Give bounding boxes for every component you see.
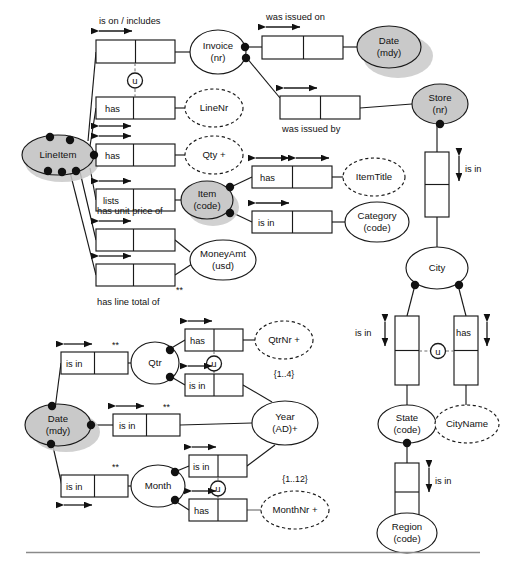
entity-qtrnr[interactable]: QtrNr + {1..4} <box>255 321 313 379</box>
fact-date-is-in-month[interactable]: is in ** <box>61 462 128 505</box>
fact-has-linenr[interactable]: has <box>96 97 175 126</box>
fact-city-has-name[interactable]: has <box>454 316 487 385</box>
mandatory-dot-lineitem-5 <box>58 168 66 176</box>
fact-item-has-title[interactable]: has <box>252 158 332 188</box>
uniqueness-u-label-2: u <box>435 346 440 357</box>
entity-label-lineitem-name: LineItem <box>40 149 77 160</box>
mandatory-dot-date-year <box>87 421 95 429</box>
entity-lineitem[interactable]: LineItem <box>22 135 94 175</box>
predicate-label-city-is-in-state: is in <box>355 328 372 338</box>
entity-label-year-ref: (AD)+ <box>272 423 298 434</box>
uniqueness-u-city[interactable]: u <box>419 344 454 359</box>
entity-region[interactable]: Region (code) <box>377 513 437 553</box>
entity-label-category-ref: (code) <box>363 222 390 233</box>
role-label-has-linenr: has <box>105 104 120 114</box>
entity-label-date-bot-ref: (mdy) <box>46 425 71 436</box>
mandatory-dot-lineitem-4 <box>44 167 52 175</box>
fact-date-is-in-year[interactable]: is in ** <box>113 402 180 436</box>
mandatory-dot-city-state <box>411 281 419 289</box>
fact-item-is-in-category[interactable]: is in <box>252 203 332 233</box>
entity-invoice[interactable]: Invoice (nr) <box>190 30 246 74</box>
entity-label-invoice-name: Invoice <box>203 40 233 51</box>
mandatory-dot-lineitem-6 <box>72 167 80 175</box>
role-label-item-is-in: is in <box>258 218 275 228</box>
entity-itemtitle[interactable]: ItemTitle <box>343 158 405 196</box>
mandatory-dot-lineitem-2 <box>66 136 74 144</box>
entity-label-item-name: Item <box>198 188 217 199</box>
fact-store-is-in-city[interactable]: is in <box>425 152 482 217</box>
entity-shapes: Invoice (nr) Date (mdy) Store (nr) LineI… <box>22 26 499 553</box>
derivation-marker-date-month: ** <box>112 462 119 472</box>
entity-label-monthnr: MonthNr + <box>272 504 317 515</box>
entity-label-state-ref: (code) <box>393 424 420 435</box>
entity-label-date-top-ref: (mdy) <box>377 47 402 58</box>
role-label-date-is-in-qtr: is in <box>66 359 83 369</box>
mandatory-dot-lineitem-3 <box>90 151 98 159</box>
mandatory-dot-city-name <box>455 281 463 289</box>
entity-linenr[interactable]: LineNr <box>185 89 243 127</box>
fact-was-issued-by[interactable]: was issued by <box>280 88 360 134</box>
mandatory-dot-state-region <box>403 439 411 447</box>
fact-date-is-in-qtr[interactable]: is in ** <box>61 340 128 374</box>
entity-category[interactable]: Category (code) <box>345 202 409 242</box>
predicate-label-has-line-total-of: has line total of <box>97 297 160 307</box>
mandatory-dot-month-year <box>171 468 179 476</box>
fact-has-unit-price-of[interactable]: has unit price of <box>96 206 175 251</box>
entity-label-region-ref: (code) <box>393 533 420 544</box>
fact-qtr-has-nr[interactable]: has <box>185 321 243 351</box>
entity-cityname[interactable]: CityName <box>435 405 499 443</box>
fact-city-is-in-state[interactable]: is in <box>355 316 419 385</box>
entity-monthnr[interactable]: MonthNr + {1..12} <box>261 474 329 529</box>
role-label-date-is-in-month: is in <box>66 482 83 492</box>
entity-item[interactable]: Item (code) <box>181 181 233 219</box>
uniqueness-u-invoice-linenr[interactable]: u <box>128 63 143 97</box>
entity-label-year-name: Year <box>275 411 295 422</box>
entity-label-city: City <box>429 262 446 273</box>
role-label-has-qty: has <box>105 151 120 161</box>
value-constraint-monthnr: {1..12} <box>282 474 308 484</box>
entity-label-cityname: CityName <box>446 418 488 429</box>
value-constraint-qtrnr: {1..4} <box>274 369 295 379</box>
entity-year[interactable]: Year (AD)+ <box>252 401 318 445</box>
role-label-qtr-has-nr: has <box>190 336 205 346</box>
mandatory-dot-qtr-nr <box>166 346 174 354</box>
entity-store[interactable]: Store (nr) <box>412 84 468 124</box>
entity-label-qtrnr: QtrNr + <box>268 334 300 345</box>
entity-qty[interactable]: Qty + <box>185 136 243 174</box>
entity-label-category-name: Category <box>358 210 397 221</box>
connector-lines <box>52 47 466 533</box>
entity-label-qtr: Qtr <box>148 357 162 368</box>
mandatory-dot-qtr-year <box>166 373 174 381</box>
role-label-item-has-title: has <box>260 173 275 183</box>
entity-date-top[interactable]: Date (mdy) <box>357 26 421 68</box>
derivation-marker-line-total: ** <box>176 285 183 295</box>
fact-has-qty[interactable]: has <box>96 136 175 166</box>
entity-label-state-name: State <box>396 412 418 423</box>
predicate-label-has-unit-price-of: has unit price of <box>97 206 163 216</box>
uniqueness-u-qtr[interactable]: u <box>207 351 222 374</box>
fact-month-is-in-year[interactable]: is in <box>189 447 247 477</box>
entity-label-linenr: LineNr <box>200 102 229 113</box>
entity-label-invoice-ref: (nr) <box>211 52 226 63</box>
entity-label-moneyamt-name: MoneyAmt <box>200 248 246 259</box>
uniqueness-u-month[interactable]: u <box>211 477 226 499</box>
derivation-marker-date-qtr: ** <box>112 340 119 350</box>
fact-has-line-total-of[interactable]: ** has line total of <box>96 256 183 307</box>
fact-is-on-includes[interactable]: is on / includes <box>96 16 175 63</box>
fact-was-issued-on[interactable]: was issued on <box>262 12 343 59</box>
uniqueness-u-label-1: u <box>132 75 137 86</box>
mandatory-dot-item-category <box>226 209 234 217</box>
role-label-city-has-name: has <box>456 328 471 338</box>
mandatory-dot-date-qtr <box>48 402 56 410</box>
entity-moneyamt[interactable]: MoneyAmt (usd) <box>190 240 256 280</box>
mandatory-dot-invoice-date <box>241 43 249 51</box>
entity-state[interactable]: State (code) <box>378 405 436 443</box>
entity-label-region-name: Region <box>392 521 422 532</box>
predicate-label-was-issued-by: was issued by <box>281 124 341 134</box>
role-label-qtr-is-in-year: is in <box>189 381 206 391</box>
uniqueness-u-label-3: u <box>211 358 216 369</box>
fact-state-is-in-region[interactable]: is in <box>395 463 452 521</box>
entity-label-store-name: Store <box>429 92 452 103</box>
entity-date-bottom[interactable]: Date (mdy) <box>25 404 91 446</box>
role-label-month-is-in-year: is in <box>193 462 210 472</box>
